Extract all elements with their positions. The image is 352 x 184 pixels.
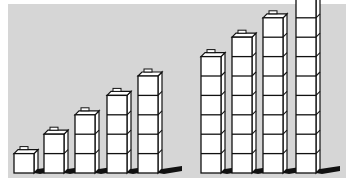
tower-front: [232, 37, 252, 173]
cube-tower: [296, 0, 340, 174]
cube-nub: [81, 108, 89, 111]
cube-nub: [207, 50, 215, 53]
left-group: [14, 69, 182, 174]
tower-front: [138, 76, 158, 173]
tower-front: [296, 0, 316, 173]
cube-nub: [238, 30, 246, 33]
cube-tower: [138, 69, 182, 174]
tower-front: [75, 115, 95, 173]
cube-towers-diagram: [0, 0, 352, 184]
right-group: [201, 0, 340, 174]
cube-nub: [144, 69, 152, 72]
cube-nub: [269, 11, 277, 14]
cube-nub: [113, 88, 121, 91]
cube-nub: [20, 147, 28, 150]
tower-front: [14, 154, 34, 173]
cube-nub: [50, 127, 58, 130]
